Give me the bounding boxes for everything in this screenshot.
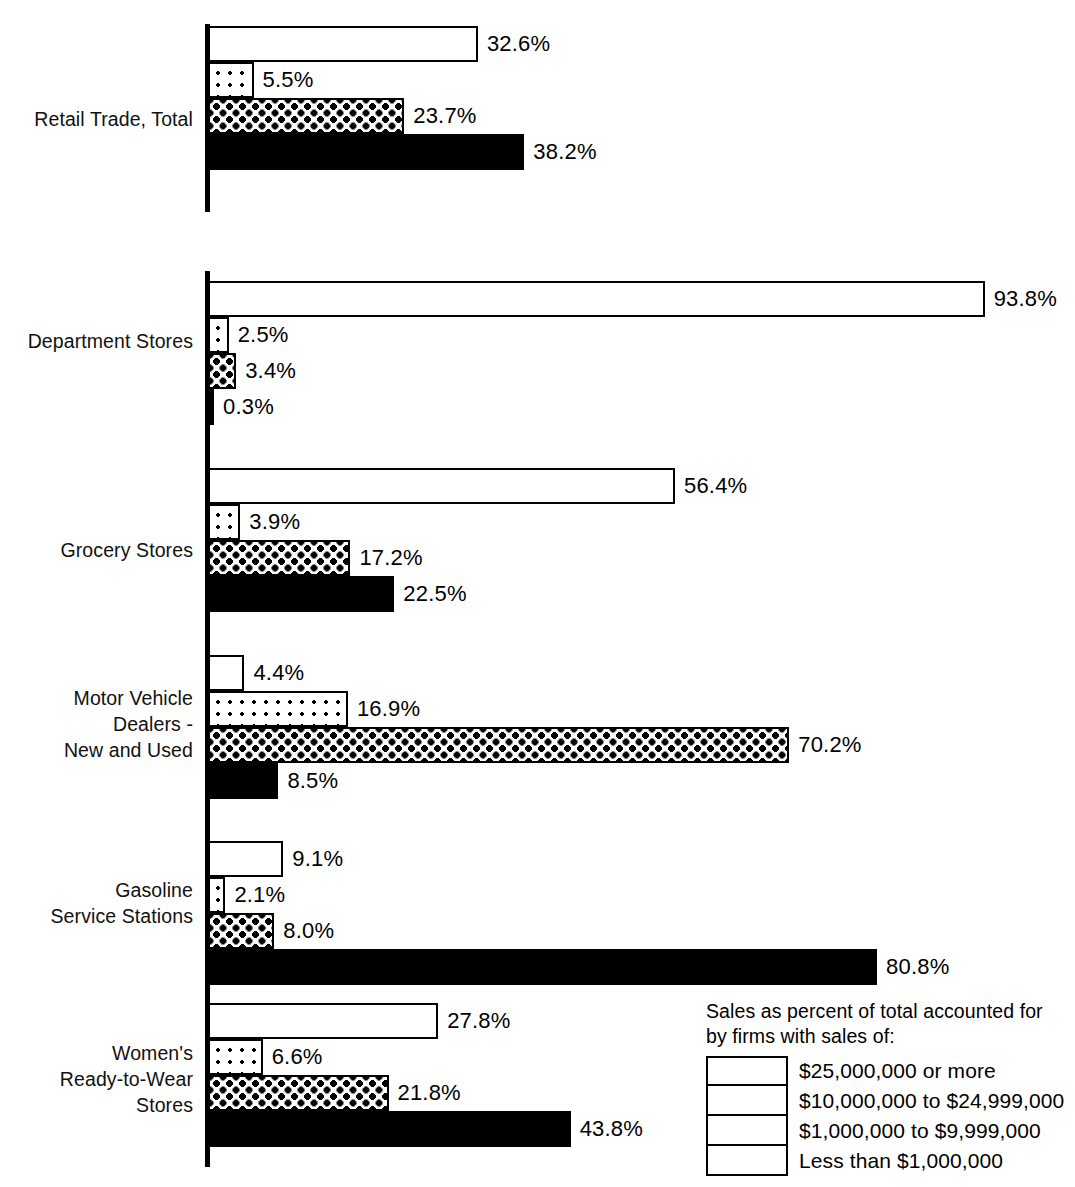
legend-caption: Sales as percent of total accounted for … xyxy=(706,999,1066,1049)
category-label: Gasoline Service Stations xyxy=(0,877,193,929)
bar-value-label: 0.3% xyxy=(223,389,274,425)
bar-segment[interactable] xyxy=(208,134,524,170)
bar-value-label: 21.8% xyxy=(398,1075,461,1111)
bar-row: 9.1% xyxy=(208,841,443,877)
bar-row: 4.4% xyxy=(208,655,404,691)
bar-row: 93.8% xyxy=(208,281,1075,317)
category-label: Retail Trade, Total xyxy=(0,106,193,132)
bar-row: 17.2% xyxy=(208,540,510,576)
legend-swatch-solid-black xyxy=(706,1146,788,1176)
bar-value-label: 2.5% xyxy=(238,317,289,353)
bar-segment[interactable] xyxy=(208,576,394,612)
bar-value-label: 43.8% xyxy=(580,1111,643,1147)
bar-segment[interactable] xyxy=(208,389,214,425)
bar-value-label: 93.8% xyxy=(994,281,1057,317)
bar-value-label: 6.6% xyxy=(272,1039,323,1075)
legend-item-list: $25,000,000 or more$10,000,000 to $24,99… xyxy=(706,1056,1066,1176)
bar-segment[interactable] xyxy=(208,949,877,985)
legend-item-label: $25,000,000 or more xyxy=(799,1056,996,1086)
legend-swatch-sparse-dots xyxy=(706,1086,788,1116)
bar-value-label: 32.6% xyxy=(487,26,550,62)
category-label: Department Stores xyxy=(0,328,193,354)
bar-value-label: 8.5% xyxy=(287,763,338,799)
bar-segment[interactable] xyxy=(208,841,283,877)
bar-row: 23.7% xyxy=(208,98,564,134)
bar-row: 0.3% xyxy=(208,389,374,425)
bar-row: 16.9% xyxy=(208,691,508,727)
legend-item[interactable]: $1,000,000 to $9,999,000 xyxy=(706,1116,1066,1146)
legend-item[interactable]: $25,000,000 or more xyxy=(706,1056,1066,1086)
bar-row: 2.1% xyxy=(208,877,385,913)
bar-value-label: 3.9% xyxy=(249,504,300,540)
bar-row: 80.8% xyxy=(208,949,1037,985)
bar-value-label: 16.9% xyxy=(357,691,420,727)
bar-row: 8.5% xyxy=(208,763,438,799)
bar-value-label: 4.4% xyxy=(253,655,304,691)
bar-segment[interactable] xyxy=(208,877,225,913)
category-label: Grocery Stores xyxy=(0,537,193,563)
category-label: Motor Vehicle Dealers - New and Used xyxy=(0,685,193,763)
bar-value-label: 5.5% xyxy=(263,62,314,98)
bar-value-label: 8.0% xyxy=(283,913,334,949)
bar-segment[interactable] xyxy=(208,62,254,98)
bar-value-label: 22.5% xyxy=(403,576,466,612)
bar-segment[interactable] xyxy=(208,504,240,540)
bar-segment[interactable] xyxy=(208,1039,263,1075)
bar-segment[interactable] xyxy=(208,727,789,763)
bar-segment[interactable] xyxy=(208,281,985,317)
legend-item-label: $10,000,000 to $24,999,000 xyxy=(799,1086,1064,1116)
bar-value-label: 17.2% xyxy=(359,540,422,576)
bar-segment[interactable] xyxy=(208,317,229,353)
legend-item[interactable]: $10,000,000 to $24,999,000 xyxy=(706,1086,1066,1116)
bar-row: 8.0% xyxy=(208,913,434,949)
bar-segment[interactable] xyxy=(208,26,478,62)
chart-legend: Sales as percent of total accounted for … xyxy=(706,999,1066,1176)
bar-value-label: 3.4% xyxy=(245,353,296,389)
bar-row: 3.4% xyxy=(208,353,396,389)
bar-row: 2.5% xyxy=(208,317,389,353)
legend-swatch-white xyxy=(706,1056,788,1086)
bar-row: 6.6% xyxy=(208,1039,423,1075)
bar-value-label: 9.1% xyxy=(292,841,343,877)
bar-value-label: 23.7% xyxy=(413,98,476,134)
bar-segment[interactable] xyxy=(208,1075,389,1111)
bar-value-label: 80.8% xyxy=(886,949,949,985)
bar-segment[interactable] xyxy=(208,98,404,134)
legend-item-label: $1,000,000 to $9,999,000 xyxy=(799,1116,1041,1146)
bar-row: 70.2% xyxy=(208,727,949,763)
bar-segment[interactable] xyxy=(208,691,348,727)
bar-row: 38.2% xyxy=(208,134,684,170)
bar-row: 32.6% xyxy=(208,26,638,62)
legend-swatch-dense-dots xyxy=(706,1116,788,1146)
bar-value-label: 70.2% xyxy=(798,727,861,763)
legend-item-label: Less than $1,000,000 xyxy=(799,1146,1003,1176)
bar-segment[interactable] xyxy=(208,1111,571,1147)
bar-segment[interactable] xyxy=(208,468,675,504)
bar-row: 22.5% xyxy=(208,576,554,612)
bar-row: 21.8% xyxy=(208,1075,549,1111)
bar-value-label: 27.8% xyxy=(447,1003,510,1039)
bar-segment[interactable] xyxy=(208,540,350,576)
bar-row: 5.5% xyxy=(208,62,414,98)
bar-value-label: 2.1% xyxy=(234,877,285,913)
bar-segment[interactable] xyxy=(208,763,278,799)
category-label: Women's Ready-to-Wear Stores xyxy=(0,1040,193,1118)
bar-value-label: 56.4% xyxy=(684,468,747,504)
bar-row: 27.8% xyxy=(208,1003,598,1039)
bar-segment[interactable] xyxy=(208,1003,438,1039)
bar-row: 3.9% xyxy=(208,504,400,540)
bar-segment[interactable] xyxy=(208,913,274,949)
bar-segment[interactable] xyxy=(208,353,236,389)
bar-row: 43.8% xyxy=(208,1111,731,1147)
bar-row: 56.4% xyxy=(208,468,835,504)
bar-segment[interactable] xyxy=(208,655,244,691)
bar-value-label: 38.2% xyxy=(533,134,596,170)
legend-item[interactable]: Less than $1,000,000 xyxy=(706,1146,1066,1176)
